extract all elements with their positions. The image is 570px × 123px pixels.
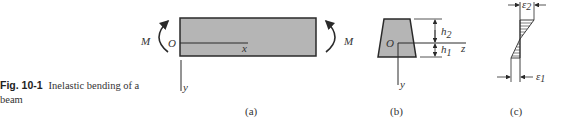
panel-c-label: (c)	[510, 105, 523, 118]
origin-label: O	[168, 37, 176, 49]
panel-b-label: (b)	[390, 105, 403, 118]
panel-b: O h2 h1 z y (b)	[378, 19, 466, 118]
z-axis-label: z	[460, 42, 466, 54]
beam-rectangle	[180, 18, 316, 56]
strain-triangle-bottom	[511, 39, 520, 58]
moment-left-label: M	[140, 35, 151, 47]
moment-right-arrow-icon	[326, 21, 335, 52]
panel-c: ε2 ε1 (c)	[497, 0, 546, 118]
beam-figure: M M O x y (a) O h2 h1 z y (b)	[0, 0, 570, 123]
eps2-label: ε2	[522, 0, 531, 12]
y-axis-label: y	[182, 81, 188, 93]
x-axis-label: x	[241, 42, 247, 54]
panel-a-label: (a)	[245, 105, 258, 118]
eps1-label: ε1	[536, 70, 545, 84]
h1-label: h1	[441, 43, 452, 58]
moment-right-label: M	[343, 35, 354, 47]
y-axis-label-b: y	[399, 78, 405, 90]
moment-left-arrow-icon	[159, 21, 168, 52]
origin-label-b: O	[386, 37, 394, 49]
strain-hatching	[512, 23, 532, 56]
h2-label: h2	[441, 25, 452, 40]
panel-a: M M O x y (a)	[140, 18, 354, 118]
cross-section-trapezoid	[378, 19, 416, 57]
